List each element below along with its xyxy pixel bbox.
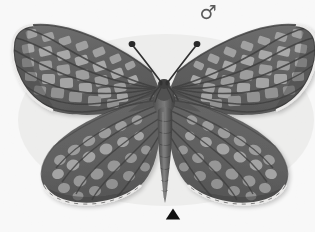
scan-grain-overlay — [0, 0, 315, 232]
triangle-up-marker-icon — [165, 206, 181, 218]
caption-strip — [0, 221, 315, 232]
specimen-plate: ♂ — [0, 0, 315, 232]
butterfly-illustration — [0, 0, 315, 232]
male-sex-symbol-icon: ♂ — [197, 1, 219, 23]
butterfly-specimen-image — [0, 0, 315, 232]
